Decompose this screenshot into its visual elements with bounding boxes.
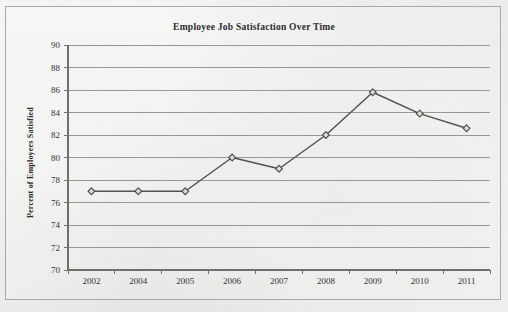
- x-tick-label: 2007: [270, 276, 289, 286]
- y-tick-label: 74: [51, 220, 61, 230]
- x-axis-ticks: 200220042005200620072008200920102011: [68, 270, 490, 286]
- y-tick-label: 82: [51, 130, 60, 140]
- data-point-marker: [88, 188, 95, 195]
- y-tick-label: 88: [51, 63, 61, 73]
- y-tick-label: 70: [51, 265, 61, 275]
- data-series-line: [91, 92, 466, 191]
- x-tick-label: 2006: [223, 276, 242, 286]
- y-tick-label: 86: [51, 85, 61, 95]
- x-tick-label: 2009: [364, 276, 383, 286]
- y-tick-label: 72: [51, 243, 60, 253]
- data-point-marker: [463, 125, 470, 132]
- x-tick-label: 2002: [82, 276, 100, 286]
- data-point-marker: [135, 188, 142, 195]
- x-tick-label: 2008: [317, 276, 336, 286]
- x-tick-label: 2011: [458, 276, 476, 286]
- y-tick-label: 84: [51, 108, 61, 118]
- y-tick-label: 78: [51, 175, 61, 185]
- data-point-marker: [416, 110, 423, 117]
- gridlines: [68, 45, 490, 270]
- y-tick-label: 80: [51, 153, 61, 163]
- x-tick-label: 2010: [411, 276, 430, 286]
- x-tick-label: 2005: [176, 276, 195, 286]
- x-tick-label: 2004: [129, 276, 148, 286]
- line-chart-plot: 7072747678808284868890 20022004200520062…: [0, 0, 508, 312]
- y-tick-label: 76: [51, 198, 61, 208]
- y-tick-label: 90: [51, 40, 61, 50]
- y-axis-ticks: 7072747678808284868890: [51, 40, 68, 275]
- data-point-markers: [88, 89, 470, 195]
